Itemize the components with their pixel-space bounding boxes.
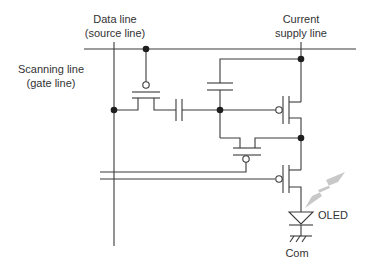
supply-line-label: Current bbox=[283, 13, 320, 25]
light-emission-icon bbox=[305, 172, 345, 208]
data-line-label: Data line bbox=[93, 13, 136, 25]
driving-transistor bbox=[276, 96, 301, 170]
threshold-transistor bbox=[100, 138, 301, 172]
oled-label: OLED bbox=[318, 209, 348, 221]
junction-nodes bbox=[111, 46, 305, 142]
data-line-sublabel: (source line) bbox=[85, 27, 146, 39]
com-label: Com bbox=[285, 247, 308, 259]
scanning-line-sublabel: (gate line) bbox=[27, 77, 76, 89]
coupling-capacitor bbox=[176, 99, 276, 121]
ground-icon bbox=[290, 236, 312, 242]
oled-diode bbox=[289, 212, 313, 236]
pixel-circuit-diagram: Data line (source line) Current supply l… bbox=[0, 0, 377, 267]
scanning-line-label: Scanning line bbox=[18, 63, 84, 75]
switching-transistor bbox=[114, 49, 176, 110]
storage-capacitor bbox=[207, 59, 301, 138]
supply-line-sublabel: supply line bbox=[275, 27, 327, 39]
